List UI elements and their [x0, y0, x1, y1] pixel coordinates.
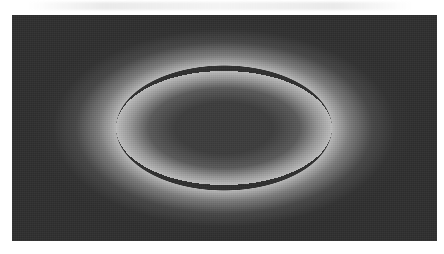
- page: [0, 0, 444, 254]
- image-noise-texture: [12, 15, 437, 241]
- cropped-text-artifact: [30, 2, 410, 10]
- ring-image: [12, 15, 437, 241]
